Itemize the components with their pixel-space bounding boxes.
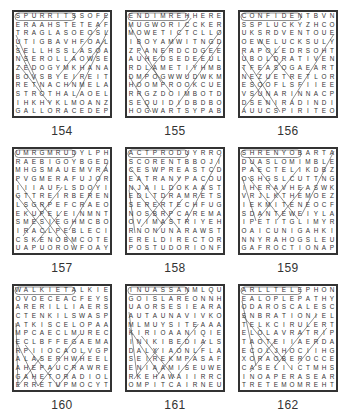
grid-row: UKSRDVENTOUE [240, 29, 336, 38]
grid-letter: M [159, 12, 167, 21]
grid-letter: A [296, 303, 304, 312]
grid-letter: Y [46, 99, 54, 108]
grid-letter: E [312, 303, 320, 312]
grid-letter: T [22, 192, 30, 201]
grid-letter: A [54, 166, 62, 175]
grid-letter: B [70, 192, 78, 201]
grid-letter: A [159, 373, 167, 382]
grid-row: IHKHYKLMOANZ [14, 99, 110, 108]
grid-row: RDLAMETIYHMB [127, 64, 223, 73]
puzzle-number: 157 [12, 261, 115, 275]
grid-letter: A [272, 312, 280, 321]
grid-letter: A [175, 381, 183, 390]
grid-letter: M [70, 99, 78, 108]
grid-letter: H [288, 192, 296, 201]
grid-letter: T [30, 192, 38, 201]
grid-letter: N [207, 295, 215, 304]
grid-letter: S [143, 210, 151, 219]
grid-letter: K [46, 312, 54, 321]
grid-letter: S [240, 312, 248, 321]
grid-letter: M [127, 321, 135, 330]
grid-letter: I [143, 338, 151, 347]
grid-letter: G [264, 175, 272, 184]
grid-letter: E [70, 166, 78, 175]
grid-letter: E [38, 295, 46, 304]
grid-letter: E [14, 210, 22, 219]
grid-letter: W [175, 38, 183, 47]
grid-letter: M [191, 286, 199, 295]
grid-letter: O [288, 381, 296, 390]
grid-letter: T [240, 64, 248, 73]
grid-letter: P [280, 107, 288, 116]
grid-letter: L [62, 99, 70, 108]
puzzle-number: 158 [125, 261, 228, 275]
letter-grid: ARLLTELEPHONEALOPLEPATHYODAROSCALESCSNBR… [238, 284, 338, 392]
grid-letter: A [22, 286, 30, 295]
grid-letter: A [272, 236, 280, 245]
grid-letter: H [320, 381, 328, 390]
grid-letter: E [30, 158, 38, 167]
grid-letter: A [199, 184, 207, 193]
grid-letter: T [215, 184, 223, 193]
grid-letter: D [183, 55, 191, 64]
grid-letter: V [280, 329, 288, 338]
grid-letter: O [135, 295, 143, 304]
grid-letter: P [296, 295, 304, 304]
grid-letter: A [127, 149, 135, 158]
grid-letter: L [207, 338, 215, 347]
grid-letter: B [46, 73, 54, 82]
grid-letter: E [22, 81, 30, 90]
grid-letter: D [320, 99, 328, 108]
grid-letter: E [296, 73, 304, 82]
grid-letter: O [14, 295, 22, 304]
grid-row: UAPUOROWFOAY [14, 244, 110, 253]
grid-letter: R [328, 73, 336, 82]
grid-letter: T [22, 312, 30, 321]
grid-letter: U [78, 175, 86, 184]
grid-letter: N [296, 201, 304, 210]
grid-letter: R [191, 192, 199, 201]
grid-letter: I [183, 303, 191, 312]
grid-row: DSENIRADINDI [240, 99, 336, 108]
grid-letter: F [78, 244, 86, 253]
grid-letter: S [312, 184, 320, 193]
grid-letter: D [288, 47, 296, 56]
grid-letter: K [22, 210, 30, 219]
grid-letter: D [167, 244, 175, 253]
grid-letter: S [127, 158, 135, 167]
grid-letter: P [38, 210, 46, 219]
grid-letter: B [14, 73, 22, 82]
letter-grid: WALKIETALKIEOVOECEACFEYSARERILLIAERSCTEN… [12, 284, 112, 392]
grid-letter: O [46, 347, 54, 356]
grid-letter: I [280, 364, 288, 373]
grid-row: ARLLTELEPHON [240, 286, 336, 295]
grid-letter: S [70, 184, 78, 193]
grid-letter: L [288, 166, 296, 175]
grid-letter: T [175, 218, 183, 227]
grid-letter: U [264, 73, 272, 82]
grid-letter: E [175, 55, 183, 64]
grid-letter: I [191, 373, 199, 382]
grid-letter: Y [280, 149, 288, 158]
grid-letter: E [312, 321, 320, 330]
grid-letter: S [304, 236, 312, 245]
grid-letter: A [328, 149, 336, 158]
grid-letter: I [312, 81, 320, 90]
grid-letter: B [191, 158, 199, 167]
grid-letter: A [14, 355, 22, 364]
grid-letter: O [175, 184, 183, 193]
grid-letter: G [62, 218, 70, 227]
grid-letter: L [280, 295, 288, 304]
grid-letter: R [191, 381, 199, 390]
grid-letter: R [62, 192, 70, 201]
grid-letter: E [94, 107, 102, 116]
grid-letter: D [127, 347, 135, 356]
grid-letter: C [240, 364, 248, 373]
grid-letter: L [102, 373, 110, 382]
grid-letter: M [62, 64, 70, 73]
grid-letter: F [199, 347, 207, 356]
grid-letter: E [207, 218, 215, 227]
grid-letter: E [199, 55, 207, 64]
grid-letter: S [22, 55, 30, 64]
grid-letter: C [199, 175, 207, 184]
